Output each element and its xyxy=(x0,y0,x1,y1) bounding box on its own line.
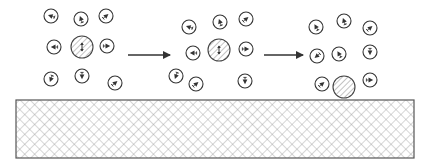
molecule-icon xyxy=(100,39,114,53)
molecule-icon xyxy=(169,69,183,83)
molecule-icon xyxy=(44,9,58,23)
molecule-icon xyxy=(310,49,324,63)
molecule-icon xyxy=(44,72,58,86)
molecule-icon xyxy=(213,15,227,29)
adsorption-diagram xyxy=(0,0,427,167)
molecule-icon xyxy=(75,69,89,83)
molecule-icon xyxy=(189,77,203,91)
molecule-icon xyxy=(363,21,377,35)
molecule-icon xyxy=(108,76,122,90)
molecule-icon xyxy=(309,20,323,34)
stage-2 xyxy=(169,12,253,91)
stages-group xyxy=(44,9,377,98)
molecule-icon xyxy=(239,12,253,26)
hatched-particle xyxy=(333,76,355,98)
molecule-icon xyxy=(47,40,61,54)
stage-1 xyxy=(44,9,122,90)
molecule-icon xyxy=(332,47,346,61)
molecule-icon xyxy=(182,20,196,34)
molecule-icon xyxy=(337,14,351,28)
molecule-icon xyxy=(99,9,113,23)
hatched-particle xyxy=(208,39,230,61)
molecule-icon xyxy=(239,42,253,56)
molecule-icon xyxy=(186,46,200,60)
stage-3 xyxy=(309,14,377,98)
hatched-particle xyxy=(71,36,93,58)
molecule-icon xyxy=(238,74,252,88)
substrate-surface xyxy=(16,100,414,158)
molecule-icon xyxy=(363,45,377,59)
molecule-icon xyxy=(74,12,88,26)
molecule-icon xyxy=(315,77,329,91)
molecule-icon xyxy=(363,73,377,87)
